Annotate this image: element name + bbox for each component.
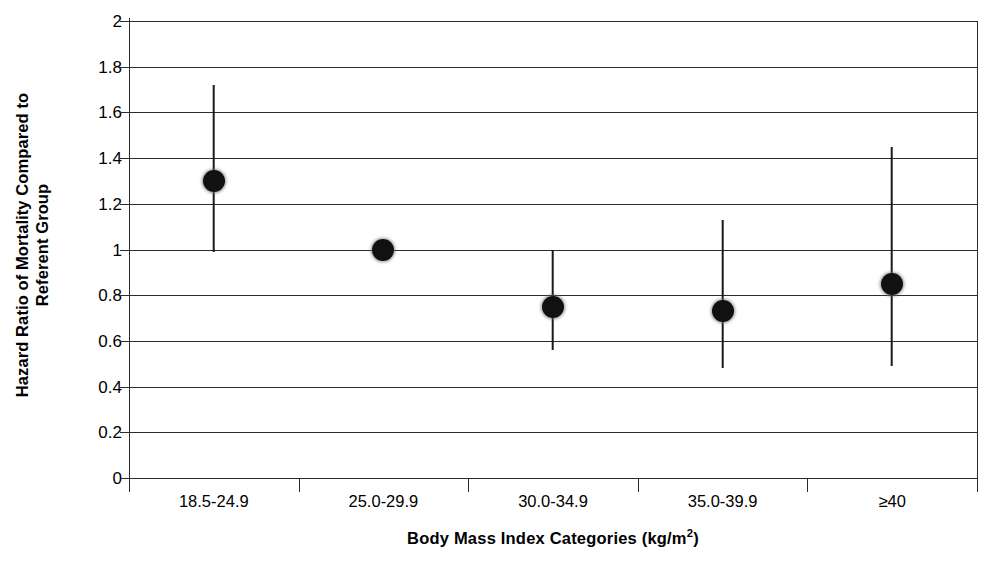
y-axis-tick-mark: [120, 387, 129, 388]
y-axis-tick-label: 1.8: [78, 58, 122, 75]
y-axis-tick-label: 0: [78, 470, 122, 487]
y-axis-tick-label: 1.2: [78, 195, 122, 212]
plot-area: [129, 21, 977, 478]
x-axis-title: Body Mass Index Categories (kg/m2): [129, 527, 977, 548]
y-axis-tick-mark: [120, 112, 129, 113]
data-point-marker: [712, 300, 734, 322]
y-axis-tick-label: 0.8: [78, 287, 122, 304]
x-axis-category-label: 35.0-39.9: [633, 492, 813, 511]
x-axis-tick-mark: [807, 478, 808, 492]
data-point-marker: [542, 296, 564, 318]
y-axis-tick-label: 0.6: [78, 332, 122, 349]
y-axis-title-line1: Hazard Ratio of Mortality Compared to: [13, 93, 31, 397]
x-axis-category-label: 30.0-34.9: [463, 492, 643, 511]
x-axis-category-label: 18.5-24.9: [124, 492, 304, 511]
y-axis-tick-label: 2: [78, 13, 122, 30]
x-axis-title-main: Body Mass Index Categories (kg/m: [407, 529, 687, 547]
y-axis-tick-mark: [120, 21, 129, 22]
y-axis-tick-mark: [120, 341, 129, 342]
y-axis-tick-label: 0.4: [78, 378, 122, 395]
error-bar: [891, 147, 893, 366]
error-bar: [721, 220, 723, 369]
y-axis-tick-label: 1: [78, 241, 122, 258]
y-axis-tick-mark: [120, 204, 129, 205]
gridline: [129, 21, 977, 22]
y-axis-tick-labels: 00.20.40.60.811.21.41.61.82: [62, 0, 122, 568]
gridline: [129, 204, 977, 205]
gridline: [129, 478, 977, 479]
x-axis-category-label: ≥40: [802, 492, 982, 511]
x-axis-tick-mark: [638, 478, 639, 492]
y-axis-title-line2: Referent Group: [32, 10, 52, 480]
y-axis-tick-mark: [120, 432, 129, 433]
gridline: [129, 432, 977, 433]
y-axis-tick-label: 1.4: [78, 150, 122, 167]
y-axis-tick-mark: [120, 67, 129, 68]
gridline: [129, 67, 977, 68]
y-axis-tick-label: 1.6: [78, 104, 122, 121]
gridline: [129, 112, 977, 113]
x-axis-tick-mark: [977, 478, 978, 492]
x-axis-tick-mark: [129, 478, 130, 492]
plot-right-border: [977, 21, 978, 478]
data-point-marker: [881, 273, 903, 295]
error-bar: [212, 85, 214, 252]
x-axis-tick-mark: [299, 478, 300, 492]
x-axis-tick-mark: [468, 478, 469, 492]
data-point-marker: [372, 239, 394, 261]
y-axis-tick-label: 0.2: [78, 424, 122, 441]
gridline: [129, 158, 977, 159]
data-point-marker: [203, 170, 225, 192]
y-axis-tick-mark: [120, 295, 129, 296]
y-axis-tick-mark: [120, 478, 129, 479]
y-axis-tick-mark: [120, 250, 129, 251]
gridline: [129, 387, 977, 388]
hazard-ratio-forest-plot: Hazard Ratio of Mortality Compared to Re…: [0, 0, 991, 568]
x-axis-title-tail: ): [693, 529, 699, 547]
y-axis-tick-mark: [120, 158, 129, 159]
x-axis-category-label: 25.0-29.9: [293, 492, 473, 511]
y-axis-title: Hazard Ratio of Mortality Compared to Re…: [0, 0, 64, 490]
